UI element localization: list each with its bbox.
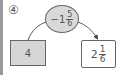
result-denominator: 6 xyxy=(100,55,106,64)
operation-ellipse: − 1 5 6 xyxy=(45,5,79,33)
start-value-box: 4 xyxy=(10,40,46,66)
result-fraction: 1 6 xyxy=(99,45,107,64)
operation-sign: − xyxy=(51,14,59,25)
operation-whole: 1 xyxy=(59,14,65,25)
result-numerator: 1 xyxy=(99,45,107,55)
operation-denominator: 6 xyxy=(67,20,72,28)
connector-line-left xyxy=(28,22,46,40)
result-whole: 2 xyxy=(91,48,98,61)
operation-fraction: 5 6 xyxy=(66,11,73,28)
result-value-box: 2 1 6 xyxy=(81,40,116,68)
start-value: 4 xyxy=(25,48,31,59)
operation-expression: − 1 5 6 xyxy=(46,6,78,32)
arrow-to-result xyxy=(78,22,97,38)
